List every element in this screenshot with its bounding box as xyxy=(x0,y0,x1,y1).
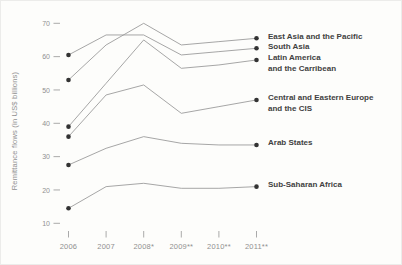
y-tick-label-60: 60 xyxy=(42,53,50,60)
y-tick-label-10: 10 xyxy=(42,220,50,227)
series-line-central-and-eastern-europe-and-the-cis xyxy=(69,85,257,137)
legend-label-line: Sub-Saharan Africa xyxy=(268,180,342,191)
x-tick-label-2010: 2010** xyxy=(207,242,231,251)
legend-label-line: Latin America xyxy=(268,53,336,64)
legend-label-line: Arab States xyxy=(268,138,312,149)
legend-label-line: Central and Eastern Europe xyxy=(268,93,373,104)
data-point-marker-south-asia xyxy=(66,53,71,58)
legend-item-latin-america-and-the-carribean: Latin Americaand the Carribean xyxy=(268,53,336,74)
y-tick-label-30: 30 xyxy=(42,153,50,160)
y-tick-label-50: 50 xyxy=(42,87,50,94)
x-tick-label-2011: 2011** xyxy=(245,242,268,251)
series-line-arab-states xyxy=(69,137,257,165)
legend-label-line: and the CIS xyxy=(268,104,373,115)
data-point-marker-central-and-eastern-europe-and-the-cis xyxy=(66,134,71,139)
data-point-marker-east-asia-and-the-pacific xyxy=(254,36,259,41)
series-line-sub-saharan-africa xyxy=(69,183,257,208)
legend-item-arab-states: Arab States xyxy=(268,138,312,149)
y-tick-label-40: 40 xyxy=(42,120,50,127)
x-tick-label-2006: 2006 xyxy=(60,242,78,251)
data-point-marker-sub-saharan-africa xyxy=(66,206,71,211)
x-tick-label-2009: 2009** xyxy=(169,242,193,251)
remittance-flows-chart: Remittance flows (in US$ billions) 10203… xyxy=(0,0,402,265)
legend-item-sub-saharan-africa: Sub-Saharan Africa xyxy=(268,180,342,191)
legend-item-south-asia: South Asia xyxy=(268,42,309,53)
x-tick-label-2008: 2008* xyxy=(133,242,154,251)
data-point-marker-south-asia xyxy=(254,46,259,51)
legend-label-line: South Asia xyxy=(268,42,309,53)
data-point-marker-latin-america-and-the-carribean xyxy=(66,124,71,129)
legend-label-line: and the Carribean xyxy=(268,64,336,75)
x-tick-label-2007: 2007 xyxy=(97,242,115,251)
y-tick-label-20: 20 xyxy=(42,187,50,194)
data-point-marker-east-asia-and-the-pacific xyxy=(66,78,71,83)
series-line-south-asia xyxy=(69,35,257,55)
series-line-latin-america-and-the-carribean xyxy=(69,40,257,127)
series-line-east-asia-and-the-pacific xyxy=(69,23,257,80)
legend-label-line: East Asia and the Pacific xyxy=(268,32,362,43)
data-point-marker-arab-states xyxy=(254,143,259,148)
data-point-marker-arab-states xyxy=(66,163,71,168)
data-point-marker-latin-america-and-the-carribean xyxy=(254,58,259,63)
data-point-marker-sub-saharan-africa xyxy=(254,184,259,189)
legend-item-east-asia-and-the-pacific: East Asia and the Pacific xyxy=(268,32,362,43)
data-point-marker-central-and-eastern-europe-and-the-cis xyxy=(254,98,259,103)
y-tick-label-70: 70 xyxy=(42,20,50,27)
legend-item-central-and-eastern-europe-and-the-cis: Central and Eastern Europeand the CIS xyxy=(268,93,373,114)
